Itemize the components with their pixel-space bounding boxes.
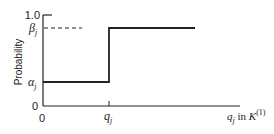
y-tick-label-0: 0	[32, 100, 38, 112]
y-tick-label-alpha: αj	[28, 75, 37, 91]
x-tick-label-qj: qj	[104, 109, 113, 125]
x-axis-title: qj in K(1)	[227, 108, 266, 125]
step-line	[43, 28, 195, 82]
y-tick-label-1: 1.0	[25, 9, 40, 21]
x-tick-label-0: 0	[39, 112, 45, 124]
step-probability-chart: Probability 1.0 βj αj 0 0 qj qj in K(1)	[0, 0, 274, 134]
y-axis-title: Probability	[13, 39, 24, 86]
y-tick-label-beta: βj	[28, 21, 38, 37]
